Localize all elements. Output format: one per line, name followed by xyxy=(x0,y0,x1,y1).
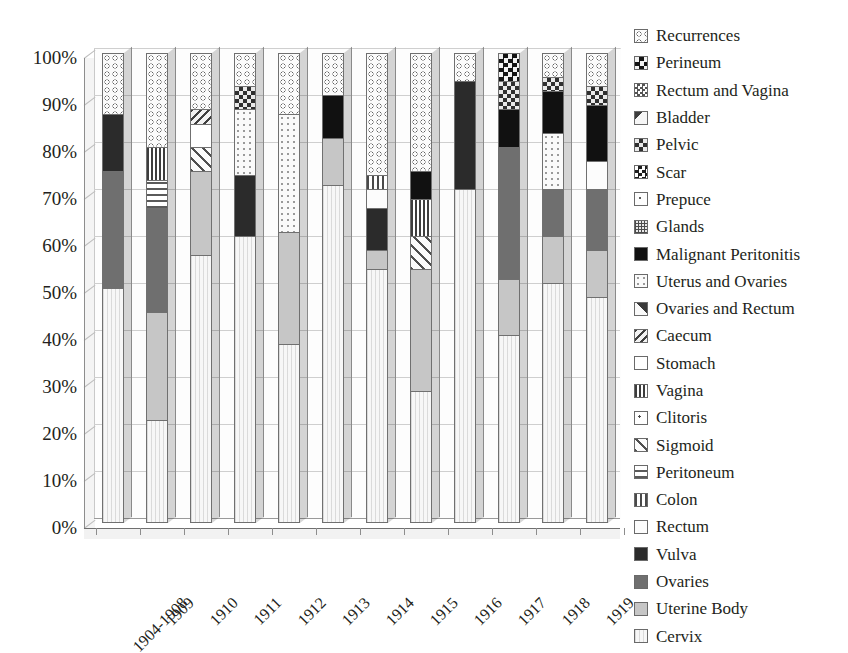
legend-item-colon[interactable]: Colon xyxy=(634,486,846,513)
bar-segment[interactable] xyxy=(146,420,168,523)
bar-1904-1908[interactable] xyxy=(102,53,124,523)
legend-item-cervix[interactable]: Cervix xyxy=(634,623,846,650)
bar-segment[interactable] xyxy=(542,283,564,523)
legend-item-rectum-and-vagina[interactable]: Rectum and Vagina xyxy=(634,77,846,104)
bar-segment[interactable] xyxy=(102,171,124,289)
bar-segment[interactable] xyxy=(498,109,520,147)
bar-segment[interactable] xyxy=(278,344,300,523)
bar-segment[interactable] xyxy=(234,53,256,86)
bar-segment[interactable] xyxy=(366,175,388,189)
bar-segment[interactable] xyxy=(234,236,256,523)
bar-segment[interactable] xyxy=(542,236,564,283)
bar-segment[interactable] xyxy=(322,95,344,137)
bar-segment[interactable] xyxy=(190,255,212,523)
legend-item-clitoris[interactable]: Clitoris xyxy=(634,404,846,431)
bar-segment[interactable] xyxy=(586,86,608,105)
bar-segment[interactable] xyxy=(410,171,432,199)
bar-segment[interactable] xyxy=(542,133,564,189)
bar-1918[interactable] xyxy=(542,53,564,523)
legend-item-stomach[interactable]: Stomach xyxy=(634,350,846,377)
bar-segment[interactable] xyxy=(322,185,344,523)
legend-item-ovaries-and-rectum[interactable]: Ovaries and Rectum xyxy=(634,295,846,322)
bar-segment[interactable] xyxy=(102,53,124,114)
legend-item-bladder[interactable]: Bladder xyxy=(634,104,846,131)
legend-item-caecum[interactable]: Caecum xyxy=(634,322,846,349)
bar-segment[interactable] xyxy=(190,124,212,148)
bar-segment[interactable] xyxy=(410,236,432,269)
bar-1914[interactable] xyxy=(366,53,388,523)
bar-1909[interactable] xyxy=(146,53,168,523)
bar-segment[interactable] xyxy=(498,279,520,335)
bar-segment[interactable] xyxy=(454,53,476,81)
bar-segment[interactable] xyxy=(102,288,124,523)
bar-segment[interactable] xyxy=(542,91,564,133)
bar-1917[interactable] xyxy=(498,53,520,523)
bar-segment[interactable] xyxy=(366,269,388,523)
legend-item-ovaries[interactable]: Ovaries xyxy=(634,568,846,595)
bar-segment[interactable] xyxy=(498,335,520,523)
legend-item-uterine-body[interactable]: Uterine Body xyxy=(634,595,846,622)
legend-item-recurrences[interactable]: Recurrences xyxy=(634,22,846,49)
bar-segment[interactable] xyxy=(586,105,608,161)
bar-segment[interactable] xyxy=(498,81,520,109)
bar-segment[interactable] xyxy=(234,175,256,236)
bar-segment[interactable] xyxy=(190,171,212,256)
bar-segment[interactable] xyxy=(146,208,168,311)
legend-item-prepuce[interactable]: Prepuce xyxy=(634,186,846,213)
bar-segment[interactable] xyxy=(366,250,388,269)
bar-segment[interactable] xyxy=(322,138,344,185)
legend-item-glands[interactable]: Glands xyxy=(634,213,846,240)
bar-segment[interactable] xyxy=(146,180,168,208)
stacked-bar-chart: 100%90%80%70%60%50%40%30%20%10%0% 1904-1… xyxy=(0,0,848,653)
bar-segment[interactable] xyxy=(410,53,432,171)
bar-1916[interactable] xyxy=(454,53,476,523)
bar-segment[interactable] xyxy=(542,189,564,236)
bar-segment[interactable] xyxy=(366,189,388,208)
legend-item-scar[interactable]: Scar xyxy=(634,158,846,185)
bar-segment[interactable] xyxy=(234,86,256,110)
bar-segment[interactable] xyxy=(586,297,608,523)
bar-segment[interactable] xyxy=(234,109,256,175)
bar-1912[interactable] xyxy=(278,53,300,523)
bar-segment[interactable] xyxy=(498,147,520,279)
bar-segment[interactable] xyxy=(146,147,168,180)
bar-1919[interactable] xyxy=(586,53,608,523)
bar-1910[interactable] xyxy=(190,53,212,523)
bar-segment[interactable] xyxy=(102,114,124,170)
bar-segment[interactable] xyxy=(542,77,564,91)
legend-item-rectum[interactable]: Rectum xyxy=(634,513,846,540)
bar-segment[interactable] xyxy=(410,391,432,523)
bar-segment[interactable] xyxy=(366,208,388,250)
legend-item-sigmoid[interactable]: Sigmoid xyxy=(634,431,846,458)
bar-segment[interactable] xyxy=(146,53,168,147)
bar-segment[interactable] xyxy=(278,53,300,114)
bar-1913[interactable] xyxy=(322,53,344,523)
bar-segment[interactable] xyxy=(586,53,608,86)
bar-segment[interactable] xyxy=(542,53,564,77)
bar-segment[interactable] xyxy=(190,53,212,109)
bar-segment[interactable] xyxy=(366,53,388,175)
bar-segment[interactable] xyxy=(454,189,476,523)
bar-segment[interactable] xyxy=(190,147,212,171)
bar-1915[interactable] xyxy=(410,53,432,523)
legend-item-perineum[interactable]: Perineum xyxy=(634,49,846,76)
bar-segment[interactable] xyxy=(586,250,608,297)
legend-item-peritoneum[interactable]: Peritoneum xyxy=(634,459,846,486)
bar-segment[interactable] xyxy=(410,269,432,391)
bar-segment[interactable] xyxy=(146,312,168,420)
bar-segment[interactable] xyxy=(410,199,432,237)
legend-item-malignant-peritonitis[interactable]: Malignant Peritonitis xyxy=(634,240,846,267)
bar-segment[interactable] xyxy=(498,53,520,81)
bar-segment[interactable] xyxy=(586,189,608,250)
legend-item-vulva[interactable]: Vulva xyxy=(634,541,846,568)
bar-segment[interactable] xyxy=(278,232,300,345)
legend-item-vagina[interactable]: Vagina xyxy=(634,377,846,404)
legend-item-pelvic[interactable]: Pelvic xyxy=(634,131,846,158)
bar-segment[interactable] xyxy=(454,81,476,189)
bar-segment[interactable] xyxy=(190,109,212,123)
bar-segment[interactable] xyxy=(586,161,608,189)
bar-segment[interactable] xyxy=(278,114,300,232)
bar-1911[interactable] xyxy=(234,53,256,523)
legend-item-uterus-and-ovaries[interactable]: Uterus and Ovaries xyxy=(634,268,846,295)
bar-segment[interactable] xyxy=(322,53,344,95)
